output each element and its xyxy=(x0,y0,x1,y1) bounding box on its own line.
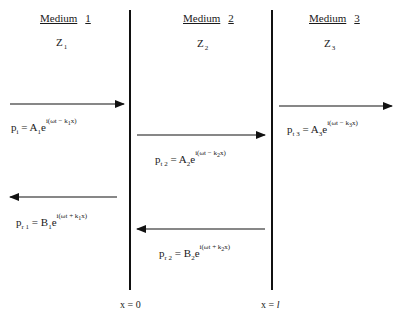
equals-sign: = xyxy=(300,123,311,135)
equation-transmitted-3: pt 3 = A3ei(ωt − k3x) xyxy=(287,120,358,138)
z-subscript: 1 xyxy=(64,43,68,51)
exponent-suffix: x) xyxy=(224,243,230,251)
medium-word: Medium xyxy=(309,12,346,24)
z-subscript: 3 xyxy=(332,44,336,52)
medium-number: 3 xyxy=(354,12,360,24)
impedance-z2: Z2 xyxy=(197,38,208,52)
equals-sign: = xyxy=(18,121,29,133)
impedance-z3: Z3 xyxy=(324,38,335,52)
exponent: i(ωt + k2x) xyxy=(200,243,231,251)
amplitude: A xyxy=(179,153,187,165)
equals-sign: = xyxy=(29,216,41,228)
medium-2-title: Medium2 xyxy=(183,13,234,24)
exponent-suffix: x) xyxy=(220,149,226,157)
p-subscript: r 1 xyxy=(22,223,30,231)
equation-reflected-1: pr 1 = B1ei(ωt + k1x) xyxy=(16,213,87,231)
p-subscript: r 2 xyxy=(165,254,173,262)
x-equals: x = xyxy=(261,299,277,310)
boundary-label-x0: x = 0 xyxy=(120,300,141,310)
exponent-prefix: i(ωt − k xyxy=(46,117,68,125)
exponent-suffix: x) xyxy=(71,117,77,125)
equals-sign: = xyxy=(168,153,179,165)
exponent-prefix: i(ωt − k xyxy=(327,119,349,127)
x-equals: x = xyxy=(120,299,136,310)
p-subscript: t 3 xyxy=(293,130,300,138)
boundary-value: l xyxy=(277,299,280,310)
equals-sign: = xyxy=(172,247,184,259)
boundary-label-xl: x = l xyxy=(261,300,279,310)
exponent: i(ωt − k2x) xyxy=(195,149,226,157)
medium-number: 1 xyxy=(85,12,91,24)
equation-transmitted-2: pt 2 = A2ei(ωt − k2x) xyxy=(155,150,226,168)
z-subscript: 2 xyxy=(205,44,209,52)
medium-word: Medium xyxy=(183,12,220,24)
exponent: i(ωt − k3x) xyxy=(327,119,358,127)
z-symbol: Z xyxy=(324,37,331,49)
equation-incident: pi = A1ei(ωt − k1x) xyxy=(11,118,77,136)
exponent: i(ωt − k1x) xyxy=(46,117,77,125)
wave-transmission-diagram: Medium1 Medium2 Medium3 Z1 Z2 Z3 pi = A1… xyxy=(0,0,401,319)
medium-word: Medium xyxy=(40,12,77,24)
amplitude: A xyxy=(30,121,38,133)
exponent: i(ωt + k1x) xyxy=(57,212,88,220)
medium-number: 2 xyxy=(228,12,234,24)
exponent-suffix: x) xyxy=(352,119,358,127)
p-subscript: t 2 xyxy=(161,160,168,168)
boundary-value: 0 xyxy=(136,299,141,310)
amplitude: A xyxy=(311,123,319,135)
exponent-prefix: i(ωt − k xyxy=(195,149,217,157)
exponent-prefix: i(ωt + k xyxy=(57,212,79,220)
z-symbol: Z xyxy=(56,36,63,48)
impedance-z1: Z1 xyxy=(56,37,67,51)
exponent-prefix: i(ωt + k xyxy=(200,243,222,251)
exponent-suffix: x) xyxy=(81,212,87,220)
medium-1-title: Medium1 xyxy=(40,13,91,24)
equation-reflected-2: pr 2 = B2ei(ωt + k2x) xyxy=(159,244,230,262)
medium-3-title: Medium3 xyxy=(309,13,360,24)
z-symbol: Z xyxy=(197,37,204,49)
